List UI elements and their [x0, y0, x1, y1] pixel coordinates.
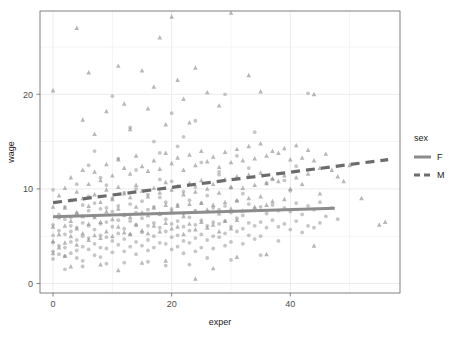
data-point	[110, 239, 114, 243]
data-point	[241, 227, 245, 231]
data-point	[146, 238, 150, 242]
data-point	[300, 231, 304, 235]
data-point	[294, 201, 298, 205]
data-point	[158, 196, 162, 200]
data-point	[277, 239, 281, 243]
data-point	[146, 260, 150, 264]
x-tick-label: 0	[51, 299, 56, 309]
data-point	[229, 258, 233, 262]
data-point	[199, 161, 203, 165]
data-point	[164, 242, 168, 246]
data-point	[87, 248, 91, 252]
data-point	[105, 220, 109, 224]
data-point	[193, 119, 197, 123]
data-point	[253, 130, 257, 134]
data-point	[158, 178, 162, 182]
data-point	[223, 244, 227, 248]
data-point	[176, 233, 180, 237]
x-tick-label: 20	[167, 299, 177, 309]
data-point	[99, 246, 103, 250]
data-point	[81, 221, 85, 225]
data-point	[217, 222, 221, 226]
data-point	[193, 249, 197, 253]
data-point	[87, 209, 91, 213]
data-point	[128, 245, 132, 249]
data-point	[265, 212, 269, 216]
data-point	[63, 267, 67, 271]
data-point	[241, 214, 245, 218]
data-point	[193, 223, 197, 227]
data-point	[93, 253, 97, 257]
data-point	[75, 238, 79, 242]
data-point	[105, 247, 109, 251]
data-point	[105, 183, 109, 187]
y-tick-label: 10	[23, 184, 33, 194]
data-point	[188, 263, 192, 267]
data-point	[188, 229, 192, 233]
data-point	[75, 182, 79, 186]
data-point	[259, 234, 263, 238]
data-point	[122, 237, 126, 241]
data-point	[182, 239, 186, 243]
legend-title: sex	[414, 133, 429, 143]
data-point	[158, 241, 162, 245]
data-point	[140, 216, 144, 220]
y-tick-label: 20	[23, 90, 33, 100]
data-point	[93, 149, 97, 153]
data-point	[235, 230, 239, 234]
data-point	[122, 261, 126, 265]
data-point	[51, 188, 55, 192]
data-point	[182, 225, 186, 229]
data-point	[134, 240, 138, 244]
y-axis-title: wage	[6, 141, 16, 164]
data-point	[69, 240, 73, 244]
data-point	[182, 135, 186, 139]
x-tick-label: 40	[285, 299, 295, 309]
data-point	[99, 207, 103, 211]
data-point	[306, 224, 310, 228]
data-point	[110, 94, 114, 98]
data-point	[223, 92, 227, 96]
data-point	[259, 220, 263, 224]
data-point	[170, 222, 174, 226]
scatter-plot-figure: 02040 01020 exper wage sex FM	[0, 0, 461, 343]
x-axis-title: exper	[209, 317, 232, 327]
data-point	[193, 236, 197, 240]
data-point	[211, 247, 215, 251]
data-point	[57, 252, 61, 256]
data-point	[170, 235, 174, 239]
data-point	[164, 230, 168, 234]
data-point	[294, 219, 298, 223]
data-point	[63, 232, 67, 236]
data-point	[318, 221, 322, 225]
data-point	[63, 246, 67, 250]
data-point	[128, 202, 132, 206]
data-point	[140, 244, 144, 248]
legend-label-m: M	[437, 170, 445, 180]
data-point	[300, 213, 304, 217]
data-point	[176, 144, 180, 148]
data-point	[116, 218, 120, 222]
data-point	[116, 231, 120, 235]
data-point	[205, 194, 209, 198]
data-point	[110, 210, 114, 214]
data-point	[259, 205, 263, 209]
data-point	[69, 230, 73, 234]
data-point	[81, 259, 85, 263]
data-point	[134, 187, 138, 191]
data-point	[241, 242, 245, 246]
data-point	[110, 225, 114, 229]
x-axis: 02040	[51, 293, 296, 309]
data-point	[170, 179, 174, 183]
data-point	[336, 217, 340, 221]
data-point	[312, 226, 316, 230]
data-point	[282, 222, 286, 226]
data-point	[253, 224, 257, 228]
data-point	[182, 251, 186, 255]
data-point	[205, 238, 209, 242]
data-point	[152, 234, 156, 238]
data-point	[199, 246, 203, 250]
data-point	[229, 240, 233, 244]
data-point	[75, 256, 79, 260]
data-point	[247, 233, 251, 237]
